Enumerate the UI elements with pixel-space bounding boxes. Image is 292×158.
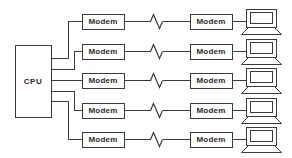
terminal-row-5: ModemModem bbox=[83, 128, 282, 153]
remote-modem-1[interactable]: Modem bbox=[191, 15, 233, 30]
terminal-base-icon-4 bbox=[242, 117, 282, 124]
terminal-screen-inner-icon-1 bbox=[251, 13, 273, 24]
terminal-row-1: ModemModem bbox=[83, 10, 282, 35]
network-topology-diagram: CPU ModemModemModemModemModemModemModemM… bbox=[0, 0, 292, 158]
remote-modem-4[interactable]: Modem bbox=[191, 104, 233, 119]
local-modem-label-4: Modem bbox=[89, 106, 118, 115]
line-break-zigzag-icon-2 bbox=[151, 45, 163, 59]
terminal-row-4: ModemModem bbox=[83, 99, 282, 124]
local-modem-1[interactable]: Modem bbox=[83, 15, 125, 30]
remote-modem-label-1: Modem bbox=[197, 17, 226, 26]
local-modem-4[interactable]: Modem bbox=[83, 104, 125, 119]
remote-modem-label-5: Modem bbox=[197, 135, 226, 144]
local-modem-label-5: Modem bbox=[89, 135, 118, 144]
cpu-to-modem-wire-2 bbox=[52, 52, 83, 70]
remote-modem-label-3: Modem bbox=[197, 76, 226, 85]
local-modem-2[interactable]: Modem bbox=[83, 45, 125, 60]
cpu-label: CPU bbox=[24, 77, 43, 86]
terminal-row-3: ModemModem bbox=[83, 69, 282, 94]
remote-modem-2[interactable]: Modem bbox=[191, 45, 233, 60]
line-break-zigzag-icon-1 bbox=[151, 15, 163, 29]
terminal-row-2: ModemModem bbox=[83, 40, 282, 65]
topology-canvas: CPU ModemModemModemModemModemModemModemM… bbox=[0, 0, 292, 158]
cpu-node[interactable]: CPU bbox=[16, 46, 52, 118]
terminal-1[interactable] bbox=[242, 10, 282, 35]
terminal-base-icon-5 bbox=[242, 146, 282, 153]
terminal-3[interactable] bbox=[242, 69, 282, 94]
terminal-screen-inner-icon-3 bbox=[251, 72, 273, 83]
terminal-screen-inner-icon-4 bbox=[251, 102, 273, 113]
connection-wires-layer bbox=[52, 22, 83, 140]
local-modem-label-3: Modem bbox=[89, 76, 118, 85]
cpu-to-modem-wire-5 bbox=[52, 102, 83, 140]
remote-modem-3[interactable]: Modem bbox=[191, 74, 233, 89]
cpu-to-modem-wire-1 bbox=[52, 22, 83, 59]
local-modem-5[interactable]: Modem bbox=[83, 133, 125, 148]
terminal-base-icon-2 bbox=[242, 58, 282, 65]
terminal-4[interactable] bbox=[242, 99, 282, 124]
local-modem-3[interactable]: Modem bbox=[83, 74, 125, 89]
terminal-screen-inner-icon-2 bbox=[251, 43, 273, 54]
terminal-5[interactable] bbox=[242, 128, 282, 153]
terminal-screen-inner-icon-5 bbox=[251, 131, 273, 142]
local-modem-label-2: Modem bbox=[89, 47, 118, 56]
local-modem-label-1: Modem bbox=[89, 17, 118, 26]
remote-modem-5[interactable]: Modem bbox=[191, 133, 233, 148]
terminal-base-icon-1 bbox=[242, 28, 282, 35]
terminal-base-icon-3 bbox=[242, 87, 282, 94]
line-break-zigzag-icon-4 bbox=[151, 104, 163, 118]
terminal-rows-layer: ModemModemModemModemModemModemModemModem… bbox=[83, 10, 282, 153]
terminal-2[interactable] bbox=[242, 40, 282, 65]
remote-modem-label-2: Modem bbox=[197, 47, 226, 56]
line-break-zigzag-icon-3 bbox=[151, 74, 163, 88]
remote-modem-label-4: Modem bbox=[197, 106, 226, 115]
line-break-zigzag-icon-5 bbox=[151, 133, 163, 147]
